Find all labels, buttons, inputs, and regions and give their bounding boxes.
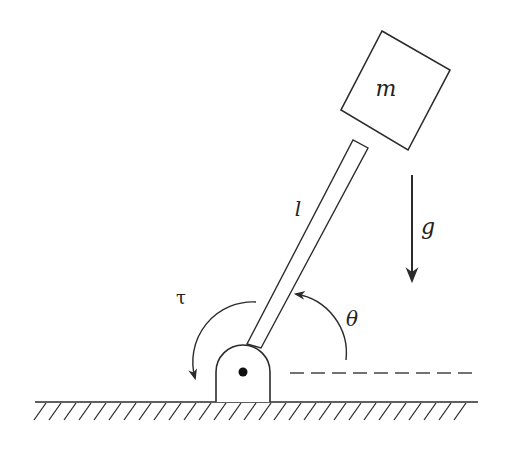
pendulum-diagram: m l g τ θ — [0, 0, 506, 460]
angle-arrow — [296, 294, 346, 360]
pivot-joint — [239, 368, 248, 377]
ground-hatching — [34, 403, 466, 420]
ground — [34, 402, 478, 420]
mass-label: m — [376, 76, 397, 101]
torque-label: τ — [176, 287, 186, 308]
length-label: l — [295, 197, 301, 221]
gravity-label: g — [421, 214, 435, 239]
angle-label: θ — [346, 307, 358, 331]
